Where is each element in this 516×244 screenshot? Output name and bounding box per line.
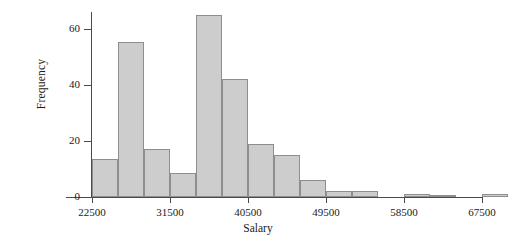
x-tick-mark (92, 197, 93, 203)
y-tick-label: 40 (40, 79, 80, 90)
y-tick-label-text: 0 (46, 191, 80, 202)
plot-area (92, 12, 482, 197)
y-tick-mark (84, 29, 91, 30)
y-tick-label-text: 20 (46, 135, 80, 146)
y-tick-mark (84, 197, 91, 198)
histogram-bar (404, 194, 430, 197)
y-tick-label: 20 (40, 135, 80, 146)
histogram-bar (248, 144, 274, 197)
y-tick-label-text: 40 (46, 79, 80, 90)
x-axis-line (66, 197, 482, 198)
x-tick-mark (482, 197, 483, 203)
histogram-figure: Frequency Salary 0204060 225003150040500… (0, 0, 516, 244)
x-tick-label: 67500 (447, 206, 516, 218)
x-tick-mark (326, 197, 327, 203)
histogram-bar (118, 42, 144, 197)
x-tick-mark (404, 197, 405, 203)
histogram-bar (482, 194, 508, 197)
x-tick-label: 31500 (135, 206, 205, 218)
histogram-bar (300, 180, 326, 197)
histogram-bar (222, 79, 248, 197)
x-tick-label: 22500 (57, 206, 127, 218)
histogram-bar (196, 15, 222, 197)
y-tick-mark (84, 141, 91, 142)
y-tick-label-text: 60 (46, 23, 80, 34)
x-tick-label: 49500 (291, 206, 361, 218)
x-tick-mark (170, 197, 171, 203)
y-tick-label: 60 (40, 23, 80, 34)
histogram-bar (92, 159, 118, 197)
histogram-bar (170, 173, 196, 197)
x-tick-mark (248, 197, 249, 203)
y-tick-label: 0 (40, 191, 80, 202)
x-tick-label: 58500 (369, 206, 439, 218)
x-tick-label: 40500 (213, 206, 283, 218)
histogram-bar (274, 155, 300, 197)
histogram-bar (326, 191, 352, 197)
histogram-bar (430, 195, 456, 197)
histogram-bar (144, 149, 170, 197)
x-axis-title: Salary (0, 222, 516, 234)
y-tick-mark (84, 85, 91, 86)
histogram-bar (352, 191, 378, 197)
